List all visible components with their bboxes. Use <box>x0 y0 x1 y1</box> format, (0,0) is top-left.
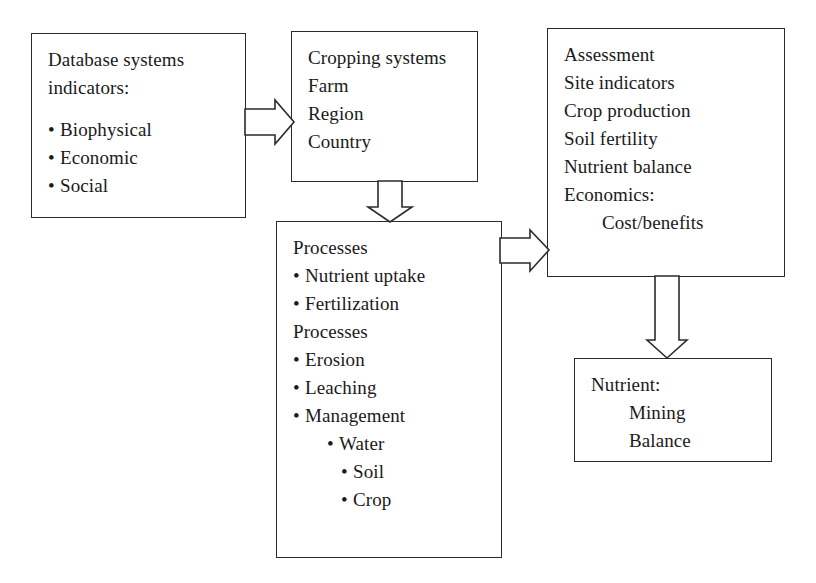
processes-item-erosion: Erosion <box>293 346 487 374</box>
box-processes: Processes Nutrient uptake Fertilization … <box>276 221 502 558</box>
box-nutrient-body: Nutrient: Mining Balance <box>575 359 771 461</box>
assessment-item-site-indicators: Site indicators <box>564 69 770 97</box>
box-database-systems-indicators: Database systems indicators: Biophysical… <box>31 33 246 218</box>
box-assessment-body: Assessment Site indicators Crop producti… <box>548 29 784 243</box>
box-nutrient: Nutrient: Mining Balance <box>574 358 772 462</box>
processes-item-fertilization: Fertilization <box>293 290 487 318</box>
database-item-economic: Economic <box>48 144 231 172</box>
processes-item-water: Water <box>293 430 487 458</box>
cropping-item-region: Region <box>308 100 463 128</box>
box-cropping-systems-body: Cropping systems Farm Region Country <box>292 32 477 162</box>
assessment-item-cost-benefits: Cost/benefits <box>564 209 770 237</box>
nutrient-item-mining: Mining <box>591 399 757 427</box>
assessment-item-crop-production: Crop production <box>564 97 770 125</box>
arrow-database-to-cropping <box>245 99 295 145</box>
processes-item-crop: Crop <box>293 486 487 514</box>
cropping-item-country: Country <box>308 128 463 156</box>
assessment-line-title: Assessment <box>564 41 770 69</box>
assessment-item-soil-fertility: Soil fertility <box>564 125 770 153</box>
assessment-item-nutrient-balance: Nutrient balance <box>564 153 770 181</box>
database-line-title-1: Database systems <box>48 46 231 74</box>
assessment-item-economics: Economics: <box>564 181 770 209</box>
database-item-biophysical: Biophysical <box>48 116 231 144</box>
box-assessment: Assessment Site indicators Crop producti… <box>547 28 785 277</box>
processes-line-title-2: Processes <box>293 318 487 346</box>
database-item-social: Social <box>48 172 231 200</box>
processes-line-title-1: Processes <box>293 234 487 262</box>
processes-item-management: Management <box>293 402 487 430</box>
cropping-item-farm: Farm <box>308 72 463 100</box>
box-database-systems-body: Database systems indicators: Biophysical… <box>32 34 245 206</box>
box-cropping-systems: Cropping systems Farm Region Country <box>291 31 478 182</box>
diagram-canvas: Database systems indicators: Biophysical… <box>0 0 816 583</box>
arrow-assessment-to-nutrient <box>646 276 688 359</box>
processes-item-nutrient-uptake: Nutrient uptake <box>293 262 487 290</box>
processes-item-soil: Soil <box>293 458 487 486</box>
cropping-line-title: Cropping systems <box>308 44 463 72</box>
nutrient-line-title: Nutrient: <box>591 371 757 399</box>
arrow-cropping-to-processes <box>367 181 413 223</box>
processes-item-leaching: Leaching <box>293 374 487 402</box>
database-line-title-2: indicators: <box>48 74 231 102</box>
arrow-processes-to-assessment <box>500 229 550 272</box>
nutrient-item-balance: Balance <box>591 427 757 455</box>
box-processes-body: Processes Nutrient uptake Fertilization … <box>277 222 501 520</box>
